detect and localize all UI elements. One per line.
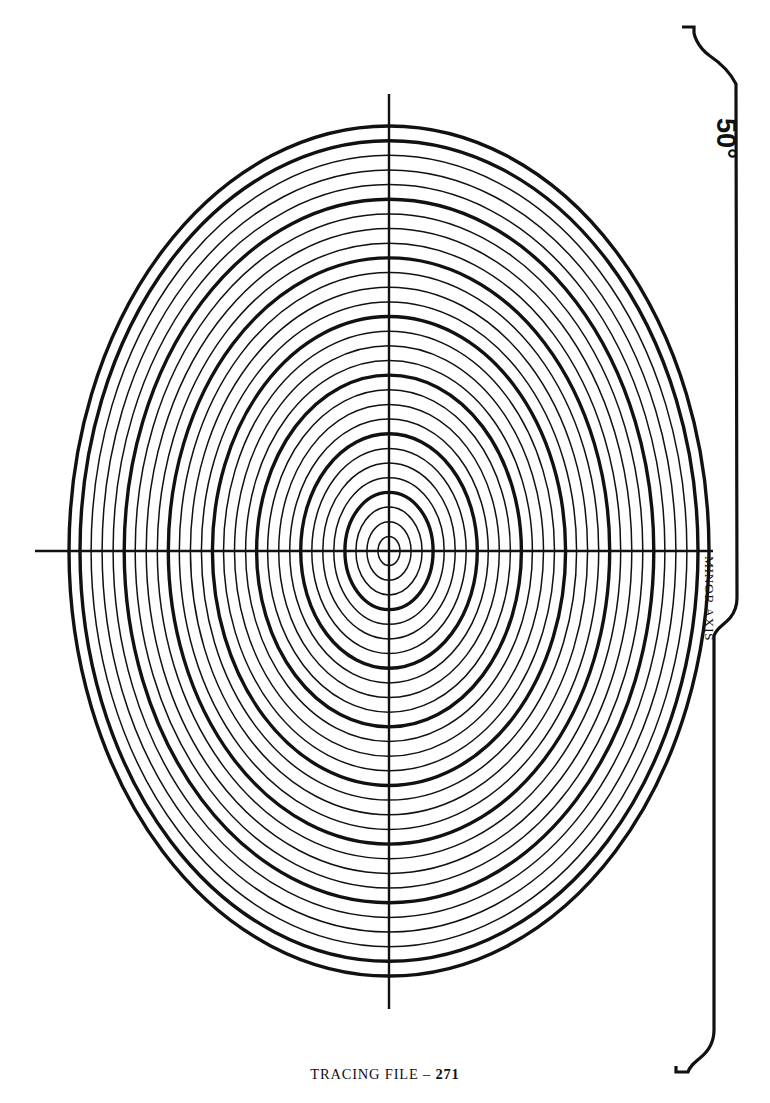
- footer-page-number: 271: [436, 1066, 460, 1082]
- right-edge-bracket-path: [676, 27, 737, 1072]
- footer-caption-text: TRACING FILE –: [310, 1066, 435, 1082]
- axis-lines-group: [35, 94, 713, 1009]
- minor-axis-label: MINOR AXIS: [701, 556, 717, 641]
- footer-caption: TRACING FILE – 271: [0, 1066, 770, 1083]
- tracing-plate-page: 50° MINOR AXIS TRACING FILE – 271: [0, 0, 770, 1103]
- ellipse-plate-figure: [0, 0, 770, 1103]
- right-edge-bracket: [676, 27, 737, 1072]
- angle-label: 50°: [710, 118, 741, 159]
